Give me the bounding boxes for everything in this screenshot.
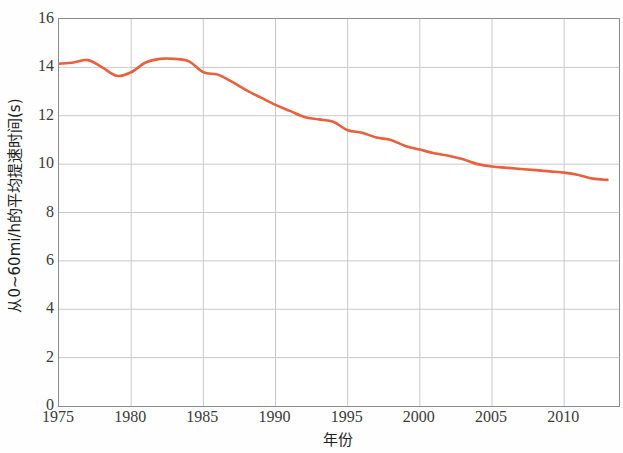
x-tick-label: 2005 xyxy=(456,408,526,426)
data-line-series xyxy=(59,59,607,180)
plot-svg xyxy=(59,19,619,406)
y-tick-label: 14 xyxy=(2,57,54,75)
x-tick-label: 1975 xyxy=(23,408,93,426)
x-tick-label: 1995 xyxy=(312,408,382,426)
x-tick-label: 1990 xyxy=(239,408,309,426)
y-tick-label: 8 xyxy=(2,203,54,221)
y-tick-label: 2 xyxy=(2,348,54,366)
plot-area xyxy=(58,18,620,407)
data-series-group xyxy=(59,59,607,180)
x-tick-label: 2010 xyxy=(528,408,598,426)
x-axis-title: 年份 xyxy=(58,428,618,449)
y-axis-tick-labels: 0246810121416 xyxy=(0,0,54,453)
grid-lines xyxy=(59,19,619,406)
acceleration-time-line-chart: 从0~60mi/h的平均提速时间(s) 0246810121416 197519… xyxy=(0,0,623,453)
x-tick-label: 2000 xyxy=(384,408,454,426)
x-axis-title-text: 年份 xyxy=(323,431,353,449)
y-tick-label: 12 xyxy=(2,106,54,124)
y-tick-label: 10 xyxy=(2,154,54,172)
y-tick-label: 16 xyxy=(2,9,54,27)
y-tick-label: 6 xyxy=(2,251,54,269)
x-tick-label: 1980 xyxy=(95,408,165,426)
y-tick-label: 4 xyxy=(2,299,54,317)
x-tick-label: 1985 xyxy=(167,408,237,426)
